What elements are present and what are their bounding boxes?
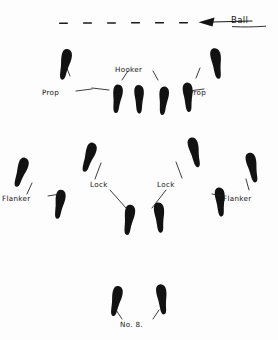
footprint-hooker-left [134, 85, 145, 114]
label-prop-right: Prop [189, 88, 206, 97]
label-lock-right: Lock [157, 180, 175, 189]
scrum-diagram: Ball Prop Hooker Prop Lock Lock Flanker … [0, 0, 278, 340]
footprint-hooker-right [158, 86, 169, 115]
footprint-prop-left-rear [58, 48, 73, 80]
footprint-lock-right-front [153, 202, 167, 233]
ball-dashed-line [59, 22, 188, 24]
footprint-lock-right-rear [186, 136, 204, 168]
label-hooker: Hooker [115, 65, 142, 74]
leader-lock-right-rear [176, 162, 182, 178]
label-lock-left: Lock [90, 180, 108, 189]
footprint-no8-left [109, 285, 124, 317]
label-number-eight: No. 8. [120, 320, 143, 329]
leader-hooker-right [153, 71, 158, 80]
number-eight-leaders [116, 310, 159, 319]
leader-no8-right [153, 310, 159, 319]
footprint-flanker-left-rear [12, 156, 30, 188]
leader-prop-right-rear [196, 68, 200, 78]
footprint-prop-left-front [112, 84, 124, 113]
leader-lock-left-front [110, 190, 126, 208]
leader-prop-left-tail [76, 89, 92, 91]
number-eight-group [109, 284, 170, 317]
front-row-group [58, 47, 225, 115]
ball-arrow-head [199, 17, 215, 26]
footprint-lock-left-front [123, 204, 136, 235]
diagram-canvas: Ball Prop Hooker Prop Lock Lock Flanker … [0, 0, 278, 340]
leader-flanker-left-rear [27, 183, 32, 194]
leader-lock-left-rear [95, 163, 101, 179]
leader-no8-left [116, 310, 122, 319]
leader-prop-left-front [92, 88, 109, 90]
footprint-no8-right [155, 284, 170, 316]
label-flanker-right: Flanker [223, 194, 251, 203]
label-ball: Ball [231, 15, 248, 25]
ball-label-underline [232, 26, 266, 27]
footprint-prop-right-rear [209, 47, 225, 79]
flanker-group [12, 152, 261, 220]
footprint-prop-right-front [182, 82, 195, 112]
leader-flanker-right-rear [246, 179, 249, 190]
footprint-flanker-right-rear [244, 152, 261, 184]
footprint-lock-left-rear [80, 141, 98, 173]
label-prop-left: Prop [42, 88, 59, 97]
label-flanker-left: Flanker [2, 194, 30, 203]
